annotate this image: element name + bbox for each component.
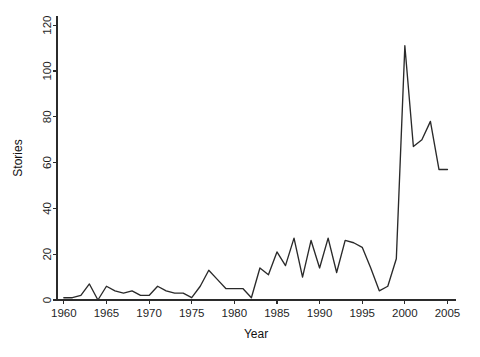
x-tick-label: 2005 — [435, 307, 461, 319]
x-tick-label: 1970 — [136, 307, 162, 319]
data-series-line — [64, 46, 448, 300]
y-axis-title: Stories — [11, 139, 25, 176]
y-tick-label: 40 — [41, 202, 53, 215]
y-tick-label: 120 — [41, 16, 53, 35]
y-tick-label: 0 — [41, 297, 53, 303]
y-tick-label: 80 — [41, 110, 53, 123]
x-tick-label: 1995 — [349, 307, 375, 319]
y-tick-label: 100 — [41, 61, 53, 80]
x-axis-ticks: 1960196519701975198019851990199520002005 — [51, 300, 460, 319]
y-axis-ticks: 020406080100120 — [41, 16, 57, 304]
x-tick-label: 1985 — [264, 307, 290, 319]
y-tick-label: 60 — [41, 156, 53, 169]
y-tick-label: 20 — [41, 248, 53, 261]
chart-figure: 020406080100120 196019651970197519801985… — [0, 0, 480, 357]
x-tick-label: 1975 — [179, 307, 205, 319]
x-tick-label: 1980 — [222, 307, 248, 319]
x-tick-label: 2000 — [392, 307, 418, 319]
x-tick-label: 1990 — [307, 307, 333, 319]
x-tick-label: 1960 — [51, 307, 77, 319]
x-axis-title: Year — [244, 327, 268, 341]
line-chart-canvas: 020406080100120 196019651970197519801985… — [0, 0, 480, 357]
x-tick-label: 1965 — [94, 307, 120, 319]
